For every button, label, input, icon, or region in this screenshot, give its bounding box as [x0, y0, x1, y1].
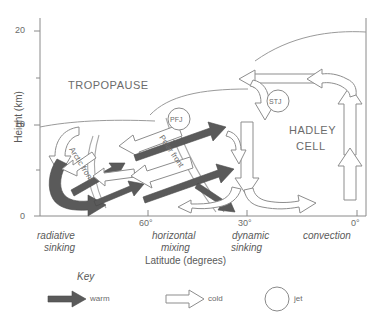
key-cold-label: cold: [208, 295, 223, 303]
region-horizontal-mixing-line2: mixing: [161, 243, 190, 253]
region-radiative-sinking-line1: radiative: [37, 231, 75, 241]
figure-canvas: .ax{stroke:#8a8a8a;stroke-width:1;fill:n…: [0, 0, 377, 318]
tropopause-label: TROPOPAUSE: [68, 80, 149, 91]
tropopause-tropical-segment: [255, 32, 366, 61]
region-radiative-sinking-line2: sinking: [44, 243, 75, 253]
hadley-top-right-curve: [307, 69, 356, 97]
convection-rising-arrow-lower: [338, 148, 362, 200]
region-horizontal-mixing-line1: horizontal: [152, 231, 195, 241]
x-axis-label: Latitude (degrees): [145, 256, 226, 266]
stj-label: STJ: [269, 98, 281, 105]
y-axis-label: Height (km): [14, 82, 24, 152]
key-jet-circle-icon: [265, 287, 289, 311]
region-convection-line1: convection: [303, 231, 351, 241]
region-dynamic-sinking-line2: sinking: [231, 243, 262, 253]
x-tick-30: 30°: [238, 219, 252, 228]
polar-surface-warm-arrow-2: [94, 181, 144, 206]
hadley-cell-label-line1: HADLEY: [289, 125, 336, 136]
diagram-svg: .ax{stroke:#8a8a8a;stroke-width:1;fill:n…: [0, 0, 377, 318]
pfj-label: PFJ: [170, 116, 182, 123]
x-tick-60: 60°: [139, 219, 153, 228]
hadley-surface-return-arrow: [244, 188, 316, 213]
region-dynamic-sinking-line1: dynamic: [232, 231, 269, 241]
tropopause-midlatitude-segment: [150, 89, 248, 115]
tropopause-polar-segment: [40, 120, 155, 127]
y-tick-20: 20: [15, 26, 25, 35]
key-warm-arrow-icon: [48, 291, 86, 307]
key-jet-label: jet: [294, 295, 302, 303]
x-tick-0: 0°: [351, 219, 360, 228]
y-tick-0: 0: [20, 212, 25, 221]
key-title: Key: [77, 272, 94, 282]
key-cold-arrow-icon: [166, 290, 204, 308]
key-warm-label: warm: [90, 295, 110, 303]
hadley-cell-label-line2: CELL: [296, 141, 326, 152]
